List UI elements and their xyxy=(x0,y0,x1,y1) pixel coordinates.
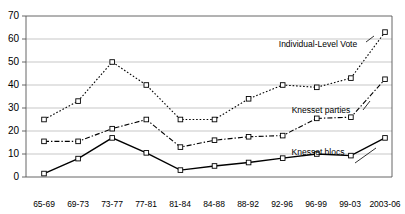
xtick-label-7: 92-96 xyxy=(271,199,293,209)
chart-plot-area: 70 60 50 40 30 20 10 0 65-69 69-73 73-77… xyxy=(0,0,405,214)
leader-knesset-blocs xyxy=(355,148,376,163)
data-point xyxy=(42,117,47,122)
data-point xyxy=(349,115,354,120)
data-point xyxy=(212,138,217,143)
xtick-label-4: 81-84 xyxy=(169,199,191,209)
data-point xyxy=(144,151,149,156)
series-label-knesset-parties: Knesset parties xyxy=(292,105,351,115)
series-label-knesset-blocs: Knesset blocs xyxy=(292,147,345,157)
data-point xyxy=(383,77,388,82)
data-point xyxy=(246,160,251,165)
data-point xyxy=(110,60,115,65)
data-point xyxy=(280,156,285,161)
xtick-label-9: 99-03 xyxy=(339,199,361,209)
data-point xyxy=(110,136,115,141)
data-point xyxy=(212,164,217,169)
data-point xyxy=(246,97,251,102)
data-point xyxy=(212,117,217,122)
data-point xyxy=(383,136,388,141)
ytick-label-60: 60 xyxy=(8,33,20,44)
data-point xyxy=(76,99,81,104)
xtick-label-6: 88-92 xyxy=(237,199,259,209)
data-point xyxy=(315,116,320,121)
data-point xyxy=(383,30,388,35)
ytick-label-70: 70 xyxy=(8,10,20,21)
xtick-label-2: 73-77 xyxy=(101,199,123,209)
data-point xyxy=(110,126,115,131)
series-annotations: Individual-Level Vote Knesset parties Kn… xyxy=(279,36,376,163)
data-point xyxy=(76,139,81,144)
data-point xyxy=(315,85,320,90)
y-tickmarks xyxy=(22,16,26,177)
ytick-label-40: 40 xyxy=(8,79,20,90)
data-point xyxy=(144,117,149,122)
gridlines xyxy=(26,39,392,154)
data-point xyxy=(76,156,81,161)
y-axis-labels: 70 60 50 40 30 20 10 0 xyxy=(8,10,20,182)
data-point xyxy=(178,117,183,122)
data-point xyxy=(178,168,183,173)
xtick-label-10: 2003-06 xyxy=(369,199,400,209)
data-point xyxy=(42,171,47,176)
data-point xyxy=(42,139,47,144)
ytick-label-20: 20 xyxy=(8,125,20,136)
xtick-label-0: 65-69 xyxy=(33,199,55,209)
xtick-label-3: 77-81 xyxy=(135,199,157,209)
ytick-label-10: 10 xyxy=(8,148,20,159)
xtick-label-5: 84-88 xyxy=(203,199,225,209)
data-point xyxy=(178,145,183,150)
xtick-label-1: 69-73 xyxy=(67,199,89,209)
data-point xyxy=(280,133,285,138)
series-label-individual-level-vote: Individual-Level Vote xyxy=(279,39,358,49)
ytick-label-0: 0 xyxy=(13,171,19,182)
data-point xyxy=(349,153,354,158)
line-chart: 70 60 50 40 30 20 10 0 65-69 69-73 73-77… xyxy=(0,0,405,214)
data-point xyxy=(349,76,354,81)
data-point xyxy=(144,83,149,88)
x-axis-labels: 65-69 69-73 73-77 77-81 81-84 84-88 88-9… xyxy=(33,199,401,209)
ytick-label-30: 30 xyxy=(8,102,20,113)
xtick-label-8: 96-99 xyxy=(305,199,327,209)
data-point xyxy=(280,83,285,88)
data-point xyxy=(246,134,251,139)
ytick-label-50: 50 xyxy=(8,56,20,67)
